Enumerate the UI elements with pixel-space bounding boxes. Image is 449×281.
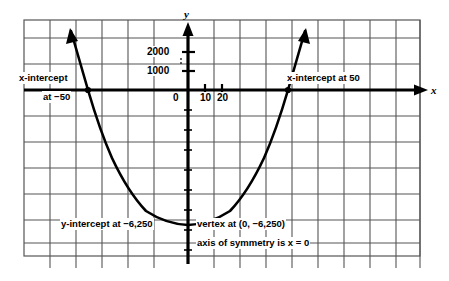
y-tick-label-2000: 2000: [146, 46, 170, 57]
annotation-y-intercept-text: y-intercept at −6,250: [61, 218, 153, 230]
x-tick-label-0: 0: [172, 92, 180, 103]
annotation-axis-of-symmetry: axis of symmetry is x = 0: [196, 237, 310, 249]
annotation-left-x-intercept-line1: x-intercept: [19, 72, 68, 84]
annotation-y-intercept: y-intercept at −6,250: [60, 218, 154, 230]
annotation-axis-of-symmetry-text: axis of symmetry is x = 0: [197, 237, 309, 249]
y-axis: [183, 22, 194, 264]
y-tick-label-1000: 1000: [146, 65, 170, 76]
x-tick-label-20: 20: [216, 92, 229, 103]
x-axis-label: x: [431, 84, 437, 96]
y-axis-label: y: [184, 8, 189, 20]
annotation-right-x-intercept: x-intercept at 50: [286, 72, 361, 84]
annotation-vertex: vertex at (0, −6,250): [196, 218, 286, 230]
annotation-right-x-intercept-text: x-intercept at 50: [287, 72, 360, 84]
annotation-left-x-intercept: x-intercept: [18, 72, 69, 84]
x-tick-label-10: 10: [199, 92, 212, 103]
annotation-left-x-intercept-value: at −50: [42, 91, 71, 103]
annotation-vertex-text: vertex at (0, −6,250): [197, 218, 285, 230]
graph-figure: x y 2000 1000 0 10 20 x-intercept at −50…: [0, 0, 449, 281]
horizontal-gridlines: [24, 38, 420, 243]
annotation-left-x-intercept-line2: at −50: [43, 91, 70, 103]
